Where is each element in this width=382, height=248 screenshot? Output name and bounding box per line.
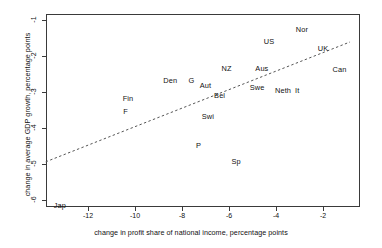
data-point-label: Fin — [123, 94, 134, 103]
data-point-label: F — [123, 107, 128, 116]
x-tick-label: -12 — [76, 212, 100, 219]
y-tick-mark — [42, 92, 46, 93]
x-tick-label: -4 — [264, 212, 288, 219]
data-point-label: NZ — [222, 63, 232, 72]
data-point-label: US — [264, 36, 274, 45]
x-tick-mark — [135, 207, 136, 211]
y-tick-mark — [42, 56, 46, 57]
data-point-label: It — [295, 85, 299, 94]
data-point-label: Swe — [250, 82, 265, 91]
chart-container: -12-10-8-6-4-2 -1-2-3-4-5-6 NorUSUKCanNZ… — [0, 0, 382, 248]
y-axis-title: change in average GDP growth, percentage… — [23, 15, 32, 215]
x-axis-title: change in profit share of national incom… — [0, 228, 382, 237]
y-tick-mark — [42, 164, 46, 165]
x-tick-mark — [323, 207, 324, 211]
x-tick-mark — [182, 207, 183, 211]
data-point-label: Nor — [296, 25, 308, 34]
y-tick-mark — [42, 128, 46, 129]
x-tick-label: -2 — [311, 212, 335, 219]
data-point-label: Sp — [231, 157, 240, 166]
x-tick-mark — [229, 207, 230, 211]
x-tick-mark — [88, 207, 89, 211]
data-point-label: Neth — [275, 85, 291, 94]
y-tick-mark — [42, 20, 46, 21]
plot-area — [46, 14, 360, 207]
x-tick-mark — [276, 207, 277, 211]
data-point-label: Aut — [200, 81, 211, 90]
data-point-label: Aus — [255, 63, 268, 72]
x-tick-label: -6 — [217, 212, 241, 219]
data-point-label: P — [196, 140, 201, 149]
x-tick-label: -10 — [123, 212, 147, 219]
data-point-label: Swi — [202, 112, 214, 121]
data-point-label: Jap — [54, 201, 66, 210]
data-point-label: Den — [163, 76, 177, 85]
y-tick-mark — [42, 200, 46, 201]
data-point-label: Can — [333, 64, 347, 73]
data-point-label: Bel — [214, 90, 225, 99]
data-point-label: G — [188, 76, 194, 85]
x-tick-label: -8 — [170, 212, 194, 219]
data-point-label: UK — [318, 44, 328, 53]
